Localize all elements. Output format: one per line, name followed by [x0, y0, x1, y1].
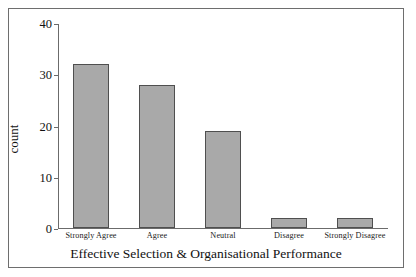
x-axis-tick-labels: Strongly AgreeAgreeNeutralDisagreeStrong… [58, 230, 390, 244]
plot-area: 010203040 [58, 18, 390, 230]
y-axis-tick-label: 30 [40, 69, 53, 82]
bar[interactable] [205, 131, 241, 228]
y-axis-tick-label: 0 [46, 223, 52, 236]
y-axis-tick-label: 10 [40, 172, 53, 185]
bar[interactable] [271, 218, 307, 228]
x-axis-tick-label: Strongly Agree [65, 230, 116, 242]
bar-chart-figure: 010203040 count Strongly AgreeAgreeNeutr… [0, 0, 416, 277]
y-axis-title: count [6, 124, 22, 153]
y-axis-tick-label: 20 [40, 120, 53, 133]
x-axis-tick-label: Strongly Disagree [324, 230, 385, 242]
y-axis-tick-label: 40 [40, 18, 53, 31]
x-axis-tick-label: Agree [147, 230, 168, 242]
bar[interactable] [337, 218, 373, 228]
bar[interactable] [139, 85, 175, 229]
x-axis-tick-label: Disagree [274, 230, 304, 242]
bar[interactable] [73, 64, 109, 228]
x-axis-tick-label: Neutral [210, 230, 235, 242]
x-axis-title: Effective Selection & Organisational Per… [8, 246, 404, 262]
bar-series [58, 18, 388, 229]
